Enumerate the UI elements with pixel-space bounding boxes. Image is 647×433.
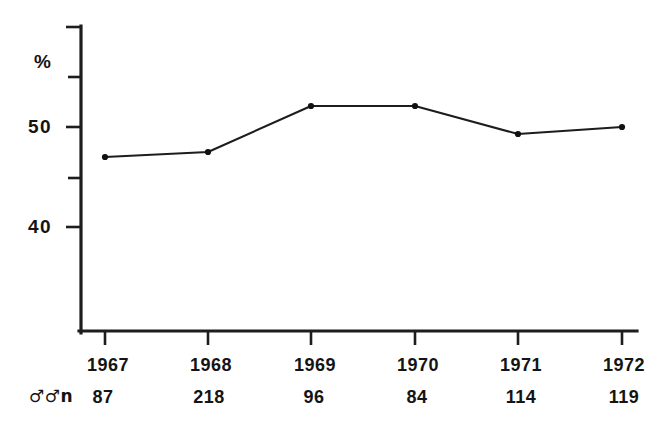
sample-size-1970: 84 [406,388,427,406]
x-tick-label-1971: 1971 [500,356,542,374]
series-point-1967 [102,154,108,160]
series-point-1970 [412,103,418,109]
sample-size-1969: 96 [303,388,324,406]
x-tick-label-1968: 1968 [190,356,232,374]
series-point-1972 [619,124,625,130]
sample-size-1971: 114 [506,388,537,406]
y-tick-label-50: 50 [28,117,52,136]
series-point-1969 [308,103,314,109]
x-tick-label-1969: 1969 [294,356,336,374]
series-line-percent [105,106,622,157]
sample-size-1972: 119 [609,388,640,406]
x-tick-label-1972: 1972 [603,356,645,374]
x-tick-label-1967: 1967 [87,356,129,374]
sample-size-row-label: ♂♂n [29,388,73,405]
series-point-1968 [205,149,211,155]
sample-size-1967: 87 [92,388,113,406]
series-point-1971 [515,131,521,137]
y-axis-unit-label: % [34,52,51,71]
sample-size-1968: 218 [193,388,225,406]
chart-figure: % 50 40 1967 1968 1969 1970 1971 1972 ♂♂… [0,0,647,433]
y-tick-label-40: 40 [28,217,52,236]
x-tick-label-1970: 1970 [397,356,439,374]
